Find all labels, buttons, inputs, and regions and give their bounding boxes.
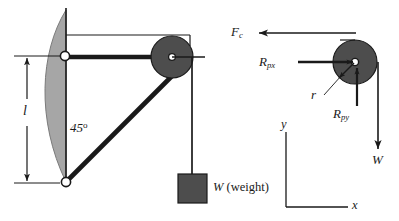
cable-force-label: Fc bbox=[231, 25, 243, 39]
mechanics-diagram: l 45o W (weight) Fc Rpx r Rpy W y x bbox=[0, 0, 399, 221]
reaction-x-subscript: px bbox=[267, 60, 275, 70]
weight-caption-text: (weight) bbox=[227, 180, 269, 194]
degree-symbol: o bbox=[83, 120, 88, 130]
upper-hinge-pin bbox=[60, 51, 69, 60]
weight-block bbox=[178, 174, 207, 203]
angle-value: 45 bbox=[70, 120, 83, 135]
reaction-x-label: Rpx bbox=[259, 55, 275, 69]
length-label: l bbox=[23, 104, 27, 118]
cable-force-symbol: F bbox=[231, 24, 239, 39]
weight-symbol: W bbox=[213, 180, 223, 194]
cable-force-subscript: c bbox=[239, 30, 243, 40]
reaction-y-subscript: py bbox=[341, 112, 349, 122]
lower-hinge-pin bbox=[61, 177, 70, 186]
reaction-x-symbol: R bbox=[259, 54, 267, 69]
reaction-y-symbol: R bbox=[333, 106, 341, 121]
axis-y-label: y bbox=[281, 118, 287, 131]
radius-leader-line bbox=[324, 76, 341, 95]
angle-label: 45o bbox=[70, 121, 88, 134]
flexible-member-shape bbox=[45, 10, 66, 182]
right-weight-label: W bbox=[372, 153, 383, 166]
weight-caption-label: W (weight) bbox=[213, 181, 269, 194]
radius-label: r bbox=[311, 88, 316, 101]
axis-x-label: x bbox=[352, 199, 358, 212]
reaction-y-label: Rpy bbox=[333, 107, 349, 121]
